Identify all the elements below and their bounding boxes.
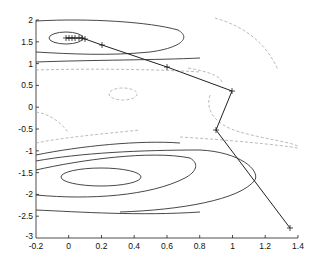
svg-text:0.5: 0.5 xyxy=(21,80,33,90)
svg-text:1: 1 xyxy=(28,59,33,69)
optimization-path xyxy=(66,38,290,228)
svg-text:-0.5: -0.5 xyxy=(18,124,33,134)
y-axis xyxy=(36,20,39,216)
svg-text:0.8: 0.8 xyxy=(194,241,206,251)
x-axis xyxy=(69,235,298,238)
svg-text:0: 0 xyxy=(66,241,71,251)
svg-text:0.2: 0.2 xyxy=(96,241,108,251)
svg-text:-3: -3 xyxy=(25,231,33,241)
svg-text:-0.2: -0.2 xyxy=(29,241,44,251)
svg-text:-2.5: -2.5 xyxy=(18,211,33,221)
svg-text:1.5: 1.5 xyxy=(21,37,33,47)
solid-contours xyxy=(36,20,256,214)
axes xyxy=(36,20,298,238)
svg-text:-1.5: -1.5 xyxy=(18,168,33,178)
svg-text:0.4: 0.4 xyxy=(128,241,140,251)
svg-text:1.2: 1.2 xyxy=(259,241,271,251)
svg-text:0: 0 xyxy=(28,102,33,112)
svg-text:0.6: 0.6 xyxy=(161,241,173,251)
svg-text:1: 1 xyxy=(230,241,235,251)
x-tick-labels: -0.2 0 0.2 0.4 0.6 0.8 1 1.2 1.4 xyxy=(29,241,305,251)
y-tick-labels: 2 1.5 1 0.5 0 -0.5 -1 -1.5 -2 -2.5 -3 xyxy=(18,15,33,241)
svg-text:-1: -1 xyxy=(25,146,33,156)
svg-text:1.4: 1.4 xyxy=(292,241,304,251)
svg-text:2: 2 xyxy=(28,15,33,25)
svg-text:-2: -2 xyxy=(25,189,33,199)
path-markers xyxy=(63,35,293,231)
contour-plot: 2 1.5 1 0.5 0 -0.5 -1 -1.5 -2 -2.5 -3 -0… xyxy=(0,0,322,264)
